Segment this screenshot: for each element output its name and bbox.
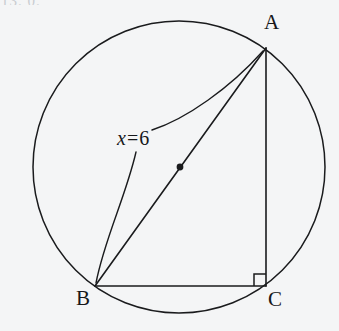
measure-value: 6: [139, 127, 149, 149]
measure-annotation: x=6: [117, 128, 149, 148]
vertex-label-c: C: [268, 289, 282, 310]
circle-center-dot: [177, 164, 184, 171]
vertex-label-b: B: [76, 288, 90, 309]
leader-line-to-vertex-a: [152, 51, 263, 130]
vertex-label-a: A: [264, 12, 279, 33]
right-angle-marker: [254, 274, 266, 286]
geometry-figure: 13. 0. A B C x=6: [0, 0, 339, 331]
measure-equals-sign: =: [126, 127, 139, 149]
geometry-canvas: [0, 0, 339, 331]
leader-line-to-vertex-b: [96, 152, 136, 283]
measure-variable: x: [117, 127, 126, 149]
